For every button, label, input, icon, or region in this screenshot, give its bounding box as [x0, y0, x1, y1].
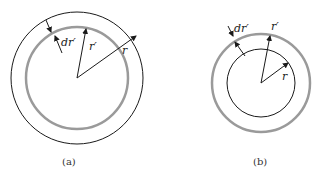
r-prime-label: r′ [271, 20, 279, 33]
r-prime-label: r′ [89, 40, 97, 53]
dr-label: dr′ [234, 22, 249, 35]
dr-arrow-inner [235, 42, 245, 56]
panel-a: dr′ r′ r (a) [11, 12, 143, 167]
r-prime-arrow [77, 29, 86, 78]
panel-b: dr′ r′ r (b) [212, 20, 310, 167]
dr-arrow-outer [46, 20, 51, 32]
r-label: r [282, 70, 288, 83]
r-prime-arrow [261, 36, 270, 83]
r-label: r [122, 44, 128, 57]
caption-b: (b) [253, 156, 267, 167]
figure-canvas: dr′ r′ r (a) dr′ r′ r (b) [0, 0, 321, 182]
caption-a: (a) [62, 156, 76, 167]
dr-label: dr′ [61, 36, 76, 49]
dr-arrow-outer [228, 26, 233, 36]
